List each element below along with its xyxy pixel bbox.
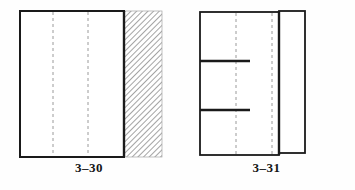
figure-3-31: 3–31 (178, 0, 355, 190)
figure-caption-3-30: 3–30 (0, 160, 178, 176)
figure-3-30: 3–30 (0, 0, 178, 190)
side-panel-rect (279, 11, 305, 153)
figure-sheet: 3–30 3–31 (0, 0, 355, 190)
figure-caption-3-31: 3–31 (178, 160, 355, 176)
body-outline-rect (200, 12, 279, 155)
body-outline-rect (20, 11, 124, 157)
hatched-section-region (124, 11, 162, 157)
